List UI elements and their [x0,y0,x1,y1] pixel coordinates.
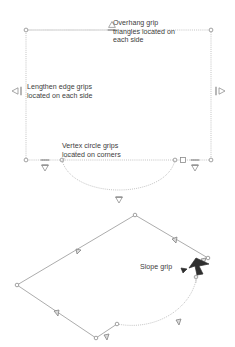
edge-arrow-grip [104,334,109,340]
triangle-down-icon [192,165,199,171]
iso-edge-grips [54,237,206,340]
plan-arc-edge [62,160,175,190]
vertex-grip [24,28,28,32]
vertex-circle-grip-callout: Vertex circle grips located on corners [62,142,154,159]
edge-arrow-grip [176,319,181,325]
edge-arrow-grip [172,237,177,243]
square-grip [181,157,186,162]
vertex-grip [94,336,98,340]
vertex-grip [15,283,19,287]
overhang-grip-bottom-left [41,160,50,171]
triangle-down-icon [116,197,123,203]
edge-arrow-grip [76,249,81,254]
overhang-grip-callout: Overhang grip triangles located on each … [113,19,205,45]
slope-grip-callout: Slope grip [140,263,198,272]
triangle-left-icon [12,88,18,94]
vertex-grip [24,158,28,162]
plan-view-group [12,22,225,204]
edge-arrow-grip [54,310,59,316]
overhang-grip-arc-bottom [116,197,123,203]
triangle-down-icon [42,165,49,171]
vertex-grip [133,213,137,217]
lengthen-grip-right [216,87,225,95]
vertex-grip [206,256,210,260]
plan-square-grip [181,157,186,162]
grip-diagram-svg: .ln { stroke: #a8a8a8; fill: none; strok… [0,0,235,347]
vertex-grip [209,158,213,162]
overhang-grip-bottom-right [191,160,200,171]
lengthen-grip-left [12,87,21,95]
vertex-grip [115,322,119,326]
vertex-grip [209,28,213,32]
diagram-canvas: .ln { stroke: #a8a8a8; fill: none; strok… [0,0,235,347]
iso-view-group [15,213,210,340]
lengthen-edge-grip-callout: Lengthen edge grips located on each side [27,83,127,100]
triangle-right-icon [219,88,225,94]
